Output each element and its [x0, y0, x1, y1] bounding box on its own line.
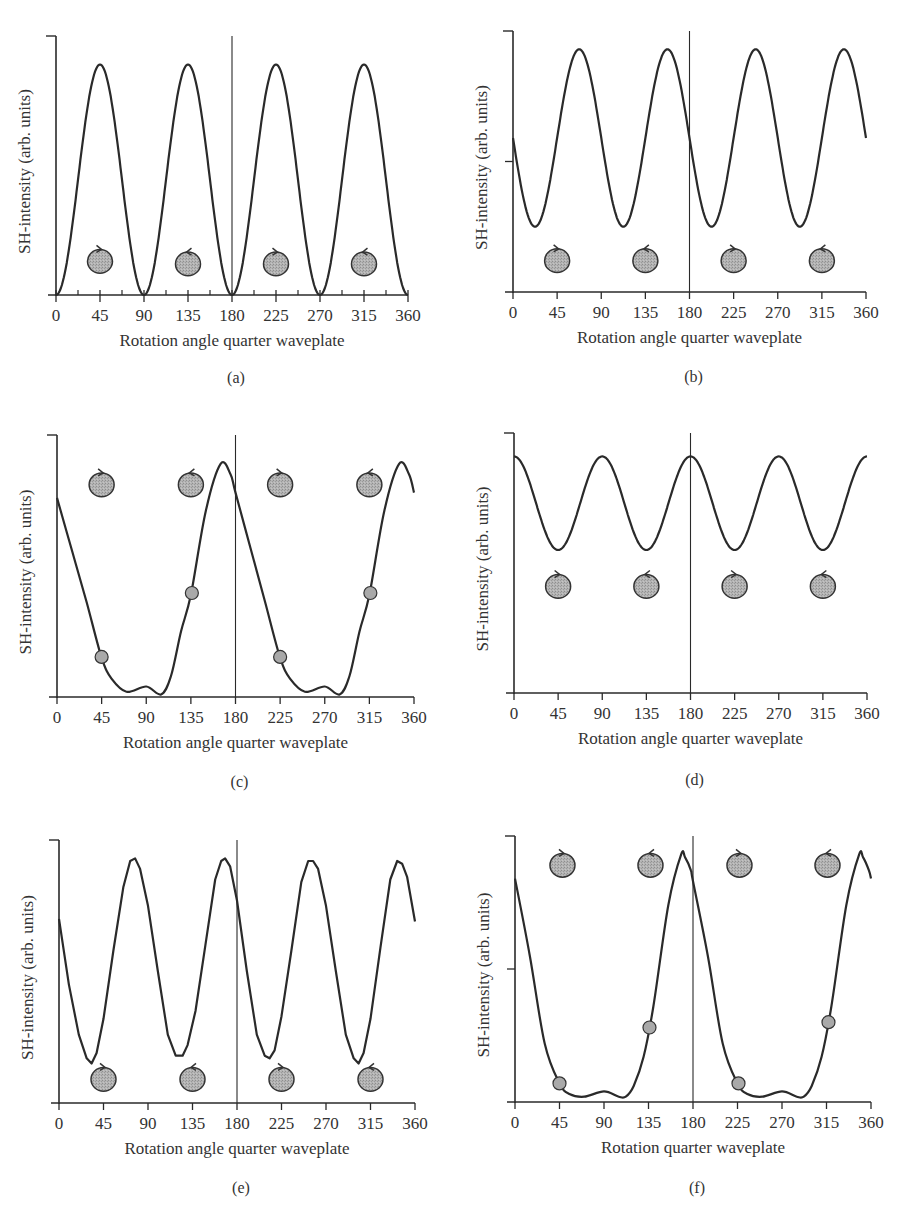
clockwise-polarization-icon	[545, 245, 570, 273]
x-tick-label: 180	[224, 1114, 250, 1133]
x-tick-label: 45	[551, 1113, 568, 1132]
counterclockwise-polarization-icon	[809, 245, 834, 273]
data-point-marker	[364, 586, 377, 599]
x-tick-label: 315	[357, 708, 383, 727]
x-tick-label: 0	[511, 1113, 520, 1132]
x-tick-label: 315	[351, 306, 377, 325]
panel-caption: (a)	[227, 369, 245, 387]
x-tick-label: 180	[219, 306, 245, 325]
data-point-marker	[185, 586, 198, 599]
x-tick-label: 135	[180, 1114, 206, 1133]
x-axis-label: Rotation angle quarter waveplate	[124, 1139, 349, 1158]
x-tick-label: 180	[223, 708, 249, 727]
x-tick-label: 225	[267, 708, 293, 727]
data-point-marker	[274, 650, 287, 663]
x-tick-label: 45	[549, 303, 566, 322]
y-axis-label: SH-intensity (arb. units)	[472, 85, 491, 250]
x-tick-label: 180	[677, 303, 703, 322]
x-tick-label: 270	[766, 704, 792, 723]
x-tick-label: 315	[358, 1114, 384, 1133]
x-axis-label: Rotation angle quarter waveplate	[578, 729, 803, 748]
x-tick-label: 360	[853, 303, 879, 322]
clockwise-polarization-icon	[721, 245, 746, 273]
clockwise-polarization-icon	[546, 571, 571, 599]
counterclockwise-polarization-icon	[357, 469, 382, 497]
x-tick-label: 360	[854, 704, 880, 723]
x-tick-label: 270	[307, 306, 333, 325]
x-axis-label: Rotation quarter waveplate	[601, 1138, 785, 1157]
x-tick-label: 270	[313, 1114, 339, 1133]
x-tick-label: 225	[263, 306, 289, 325]
clockwise-polarization-icon	[268, 469, 293, 497]
x-tick-label: 360	[401, 708, 427, 727]
figure: 04590135180225270315360Rotation angle qu…	[0, 0, 901, 1218]
panel-caption: (b)	[684, 368, 703, 386]
x-tick-label: 0	[55, 1114, 64, 1133]
x-tick-label: 90	[138, 708, 155, 727]
counterclockwise-polarization-icon	[634, 571, 659, 599]
clockwise-polarization-icon	[89, 469, 114, 497]
x-tick-label: 135	[633, 303, 659, 322]
x-tick-label: 90	[593, 303, 610, 322]
counterclockwise-polarization-icon	[810, 571, 835, 599]
counterclockwise-polarization-icon	[176, 248, 201, 276]
x-tick-label: 135	[634, 704, 660, 723]
panel-caption: (c)	[231, 773, 249, 791]
x-tick-label: 180	[680, 1113, 706, 1132]
counterclockwise-polarization-icon	[178, 469, 203, 497]
x-tick-label: 360	[395, 306, 421, 325]
chart-panel-c: 04590135180225270315360Rotation angle qu…	[16, 435, 427, 791]
clockwise-polarization-icon	[264, 248, 289, 276]
x-tick-label: 0	[510, 704, 519, 723]
x-tick-label: 270	[765, 303, 791, 322]
x-tick-label: 225	[721, 303, 747, 322]
x-tick-label: 90	[136, 306, 153, 325]
x-tick-label: 45	[92, 306, 109, 325]
panel-caption: (d)	[685, 771, 704, 789]
clockwise-polarization-icon	[727, 849, 752, 877]
x-tick-label: 45	[550, 704, 567, 723]
y-axis-label: SH-intensity (arb. units)	[473, 487, 492, 652]
clockwise-polarization-icon	[722, 571, 747, 599]
y-axis-label: SH-intensity (arb. units)	[18, 895, 37, 1060]
x-tick-label: 135	[178, 708, 204, 727]
x-tick-label: 225	[722, 704, 748, 723]
x-tick-label: 45	[93, 708, 110, 727]
clockwise-polarization-icon	[269, 1063, 294, 1091]
x-tick-label: 0	[52, 306, 61, 325]
y-axis-label: SH-intensity (arb. units)	[15, 89, 34, 254]
counterclockwise-polarization-icon	[633, 245, 658, 273]
chart-panel-b: 04590135180225270315360Rotation angle qu…	[472, 31, 879, 386]
x-tick-label: 135	[636, 1113, 662, 1132]
x-tick-label: 90	[140, 1114, 157, 1133]
data-point-marker	[732, 1077, 745, 1090]
x-tick-label: 225	[269, 1114, 295, 1133]
clockwise-polarization-icon	[91, 1063, 116, 1091]
x-tick-label: 315	[814, 1113, 840, 1132]
chart-panel-f: 04590135180225270315360Rotation quarter …	[474, 836, 884, 1197]
x-axis-label: Rotation angle quarter waveplate	[577, 328, 802, 347]
x-tick-label: 180	[678, 704, 704, 723]
x-tick-label: 90	[594, 704, 611, 723]
x-tick-label: 0	[509, 303, 518, 322]
counterclockwise-polarization-icon	[638, 849, 663, 877]
x-tick-label: 360	[402, 1114, 428, 1133]
counterclockwise-polarization-icon	[358, 1063, 383, 1091]
x-axis-label: Rotation angle quarter waveplate	[123, 733, 348, 752]
panel-caption: (e)	[232, 1179, 250, 1197]
x-tick-label: 315	[809, 303, 835, 322]
clockwise-polarization-icon	[88, 245, 113, 273]
panel-caption: (f)	[689, 1179, 705, 1197]
y-axis-label: SH-intensity (arb. units)	[474, 893, 493, 1058]
x-tick-label: 270	[312, 708, 338, 727]
x-tick-label: 270	[769, 1113, 795, 1132]
data-point-marker	[95, 650, 108, 663]
counterclockwise-polarization-icon	[352, 248, 377, 276]
data-point-marker	[643, 1021, 656, 1034]
chart-panel-d: 04590135180225270315360Rotation angle qu…	[473, 433, 880, 789]
counterclockwise-polarization-icon	[180, 1063, 205, 1091]
x-tick-label: 315	[810, 704, 836, 723]
clockwise-polarization-icon	[550, 849, 575, 877]
x-tick-label: 90	[596, 1113, 613, 1132]
x-tick-label: 0	[53, 708, 62, 727]
